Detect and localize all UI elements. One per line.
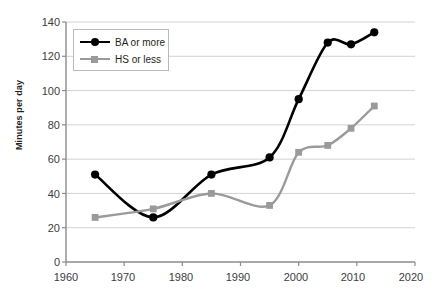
legend-item-hs-or-less: HS or less [80, 51, 161, 67]
legend-label: HS or less [115, 54, 161, 65]
plot-area [0, 0, 443, 302]
legend-label: BA or more [115, 37, 165, 48]
legend: BA or more HS or less [73, 29, 169, 71]
legend-swatch-line-square-icon [80, 54, 110, 64]
line-chart: Minutes per day 140 120 100 80 60 40 20 … [0, 0, 443, 302]
legend-item-ba-or-more: BA or more [80, 34, 165, 50]
legend-swatch-line-circle-icon [80, 37, 110, 47]
